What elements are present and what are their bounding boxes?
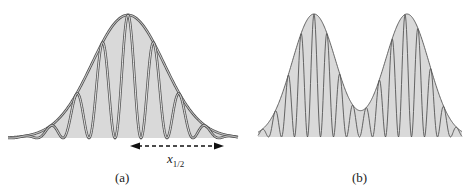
x-half-subscript: 1/2 [173,159,185,169]
panel-a-label: (a) [115,170,129,186]
fringe-figure [0,0,470,193]
panel-b-label: (b) [352,170,367,186]
x-half-label: x1/2 [167,151,184,169]
panel-b-plot [258,14,462,137]
panel-a-plot [8,15,238,138]
x-half-width-arrow [130,143,224,150]
